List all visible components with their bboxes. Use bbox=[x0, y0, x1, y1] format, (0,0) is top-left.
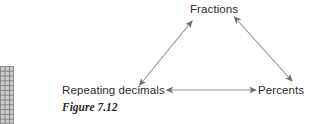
node-label-fractions: Fractions bbox=[190, 3, 238, 16]
figure-7-12: Fractions Repeating decimals Percents Fi… bbox=[0, 0, 316, 124]
arrow-repeating-decimals-to-fractions bbox=[143, 21, 192, 81]
figure-caption: Figure 7.12 bbox=[62, 101, 118, 113]
grid-artifact-svg bbox=[0, 66, 14, 124]
node-label-repeating-decimals: Repeating decimals bbox=[62, 84, 165, 97]
node-label-percents: Percents bbox=[258, 84, 304, 97]
partial-grid-artifact bbox=[0, 66, 14, 124]
relationship-diagram bbox=[0, 0, 316, 124]
arrow-fractions-to-percents bbox=[238, 21, 292, 81]
